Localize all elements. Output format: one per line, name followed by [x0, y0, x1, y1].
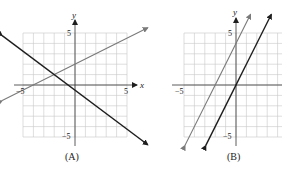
black-line-b: [206, 14, 272, 145]
tick-x-5-a: 5: [124, 87, 128, 96]
figure: y x −5 5 5 −5 (A) y −5 5 −5 (B): [0, 0, 282, 170]
graph-a: y x −5 5 5 −5 (A): [2, 10, 148, 163]
tick-y-neg5-a: −5: [62, 132, 71, 141]
y-axis-label-b: y: [232, 7, 237, 17]
tick-x-neg5-a: −5: [16, 87, 25, 96]
y-axis-label-a: y: [71, 10, 76, 20]
tick-y-5-a: 5: [67, 29, 71, 38]
caption-a: (A): [65, 151, 79, 163]
caption-b: (B): [227, 151, 240, 163]
gray-line-b: [185, 14, 251, 145]
tick-y-neg5-b: −5: [223, 132, 232, 141]
tick-y-5-b: 5: [228, 29, 232, 38]
x-axis-label-a: x: [139, 80, 144, 90]
tick-x-neg5-b: −5: [175, 87, 184, 96]
graph-b: y −5 5 −5 (B): [172, 7, 282, 163]
